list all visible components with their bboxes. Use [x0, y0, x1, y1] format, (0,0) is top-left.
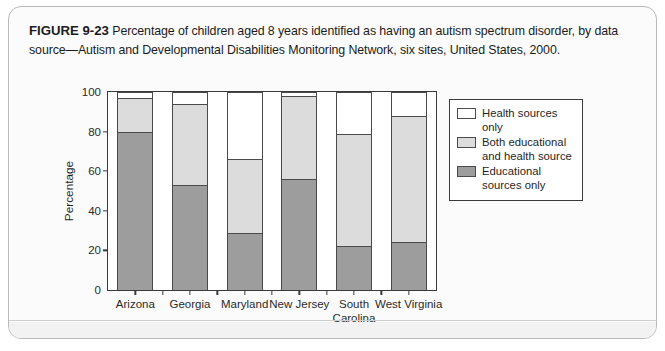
legend-label: Both educational and health source: [482, 135, 575, 163]
bar-maryland: [227, 92, 263, 290]
bar-segment-health: [227, 92, 263, 159]
x-tick-mark: [353, 290, 354, 295]
y-axis-label: Percentage: [62, 161, 76, 221]
y-tick-label: 0: [95, 284, 108, 296]
legend-label: Health sources only: [482, 106, 575, 134]
bar-arizona: [117, 92, 153, 290]
y-tick-mark: [103, 171, 108, 172]
bar-segment-both: [391, 116, 427, 243]
bar-south-carolina: [336, 92, 372, 290]
footer-divider: [9, 320, 656, 321]
footer-band: [9, 322, 656, 338]
bar-west-virginia: [391, 92, 427, 290]
legend-item: Health sources only: [457, 106, 575, 134]
legend-label: Educational sources only: [482, 164, 575, 192]
chart: Percentage 020406080100 ArizonaGeorgiaMa…: [9, 69, 657, 319]
legend-item: Educational sources only: [457, 164, 575, 192]
bar-new-jersey: [281, 92, 317, 290]
bar-segment-both: [281, 96, 317, 179]
x-tick-mark: [189, 290, 190, 295]
figure-card: FIGURE 9-23 Percentage of children aged …: [8, 6, 657, 339]
x-tick-mark-boundary: [381, 290, 382, 295]
bar-segment-both: [117, 98, 153, 132]
bar-segment-edu: [172, 185, 208, 290]
bar-segment-edu: [117, 132, 153, 290]
bar-segment-edu: [336, 246, 372, 290]
legend-swatch-health: [457, 108, 476, 119]
figure-caption: FIGURE 9-23 Percentage of children aged …: [29, 21, 641, 60]
bar-segment-both: [336, 134, 372, 247]
x-tick-label: West Virginia: [374, 298, 444, 312]
y-tick-mark: [103, 210, 108, 211]
bar-segment-edu: [227, 233, 263, 290]
bar-segment-both: [172, 104, 208, 185]
y-tick-label: 100: [82, 86, 108, 98]
x-tick-mark: [408, 290, 409, 295]
legend-swatch-both: [457, 137, 476, 148]
figure-caption-text: Percentage of children aged 8 years iden…: [29, 24, 618, 57]
bar-segment-health: [336, 92, 372, 134]
x-tick-mark: [299, 290, 300, 295]
x-tick-mark-boundary: [217, 290, 218, 295]
y-tick-mark: [103, 131, 108, 132]
bar-segment-edu: [281, 179, 317, 290]
figure-number: FIGURE 9-23: [29, 23, 109, 38]
bars-container: [108, 92, 436, 290]
bar-segment-health: [391, 92, 427, 116]
x-tick-mark-boundary: [162, 290, 163, 295]
x-tick-mark-boundary: [271, 290, 272, 295]
legend-swatch-edu: [457, 166, 476, 177]
bar-segment-health: [172, 92, 208, 104]
legend-item: Both educational and health source: [457, 135, 575, 163]
x-tick-mark: [244, 290, 245, 295]
x-tick-mark: [135, 290, 136, 295]
bar-segment-edu: [391, 242, 427, 290]
chart-legend: Health sources onlyBoth educational and …: [449, 99, 583, 201]
x-tick-mark-boundary: [326, 290, 327, 295]
bar-segment-both: [227, 159, 263, 232]
plot-area: 020406080100 ArizonaGeorgiaMarylandNew J…: [107, 91, 437, 291]
bar-georgia: [172, 92, 208, 290]
y-tick-mark: [103, 250, 108, 251]
